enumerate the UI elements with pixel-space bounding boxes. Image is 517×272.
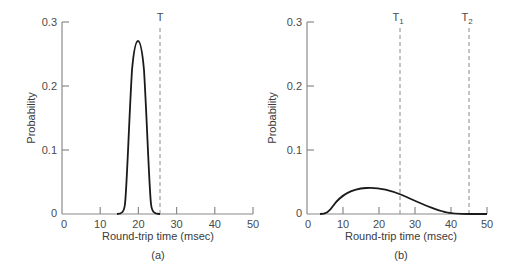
y-tick-label: 0.3 [42,16,57,28]
y-tick-label: 0 [51,207,57,219]
threshold-label-t1: T1 [392,11,404,26]
panel-a: 0.3 0.2 0.1 0 0 10 20 30 40 50 Round-tri… [25,11,259,261]
probability-curve-b [320,188,487,214]
x-tick-label: 20 [373,218,385,230]
figure: 0.3 0.2 0.1 0 0 10 20 30 40 50 Round-tri… [0,0,517,272]
panel-b: 0.3 0.2 0.1 0 0 10 20 30 40 50 Round-tri… [266,11,493,261]
x-tick-label: 40 [209,218,221,230]
y-tick-label: 0.2 [42,80,57,92]
x-tick-label: 50 [247,218,259,230]
x-axis-title: Round-trip time (msec) [102,230,214,242]
caption-a: (a) [151,249,164,261]
x-tick-label: 40 [445,218,457,230]
y-tick-label: 0.1 [42,144,57,156]
y-tick-label: 0.2 [287,80,302,92]
caption-b: (b) [394,249,407,261]
y-axis-title: Probability [266,92,278,144]
x-tick-label: 10 [337,218,349,230]
x-tick-label: 10 [94,218,106,230]
x-tick-label: 0 [305,218,311,230]
threshold-label-t2: T2 [461,11,473,26]
x-tick-label: 0 [61,218,67,230]
y-tick-label: 0.1 [287,144,302,156]
y-tick-label: 0.3 [287,16,302,28]
y-axis-title: Probability [25,92,37,144]
x-axis-title: Round-trip time (msec) [345,230,457,242]
x-tick-label: 30 [170,218,182,230]
x-tick-label: 50 [481,218,493,230]
probability-curve-a [117,41,160,214]
y-tick-label: 0 [296,207,302,219]
threshold-label-t: T [157,11,164,23]
x-tick-label: 20 [132,218,144,230]
x-tick-label: 30 [409,218,421,230]
